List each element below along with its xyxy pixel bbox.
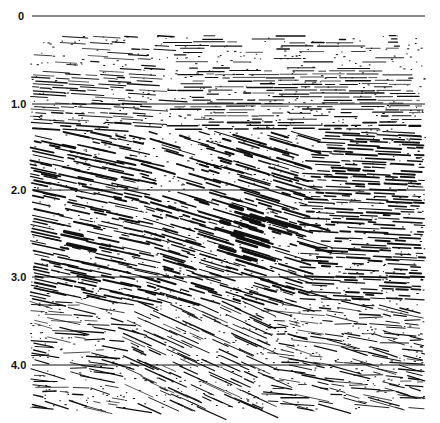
time-tick-label-3: 3.0 — [11, 271, 26, 283]
seismic-section-figure: 0 1.0 2.0 3.0 4.0 — [0, 0, 440, 423]
time-tick-label-4: 4.0 — [11, 359, 26, 371]
time-tick-label-1: 1.0 — [11, 98, 26, 110]
time-tick-label-0: 0 — [18, 10, 24, 22]
time-tick-label-2: 2.0 — [11, 184, 26, 196]
reflector-strokes — [30, 36, 426, 420]
seismic-reflection-image — [0, 0, 440, 423]
